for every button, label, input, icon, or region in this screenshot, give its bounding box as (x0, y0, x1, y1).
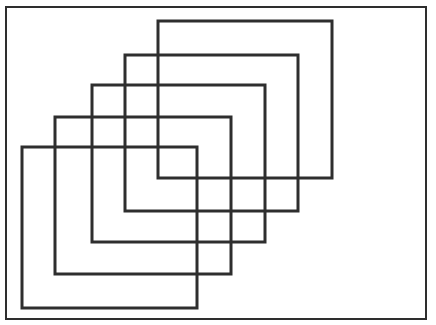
rect-1 (22, 147, 197, 308)
rect-3 (92, 85, 265, 242)
rect-2 (55, 117, 231, 274)
rect-5 (158, 21, 332, 178)
overlapping-rectangles-group (22, 21, 332, 308)
rect-4 (125, 55, 298, 211)
diagram-canvas (0, 0, 436, 325)
